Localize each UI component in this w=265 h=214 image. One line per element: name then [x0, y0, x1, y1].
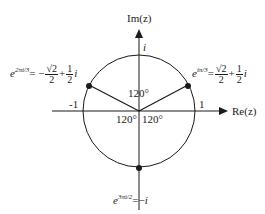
point-bottom	[136, 165, 142, 171]
point-label-right: eiπ/3=√22+12i	[192, 64, 247, 85]
angle-left: 120°	[116, 114, 137, 125]
unit-circle-diagram	[0, 0, 265, 214]
x-axis-label: Re(z)	[232, 106, 256, 117]
angle-top: 120°	[128, 88, 149, 99]
point-right	[185, 83, 191, 89]
real-axis-arrow-icon	[219, 107, 228, 115]
y-axis-label: Im(z)	[127, 13, 151, 24]
angle-right: 120°	[142, 114, 163, 125]
imaginary-axis-arrow-icon	[135, 29, 143, 38]
point-label-bottom: e3πi/2=−i	[113, 194, 148, 206]
point-label-left: e2πi/3= −√22+12i	[10, 64, 77, 85]
y-tick-i: i	[143, 42, 146, 53]
point-left	[86, 83, 92, 89]
x-tick-1: 1	[199, 99, 205, 110]
x-tick-neg1: -1	[69, 99, 78, 110]
